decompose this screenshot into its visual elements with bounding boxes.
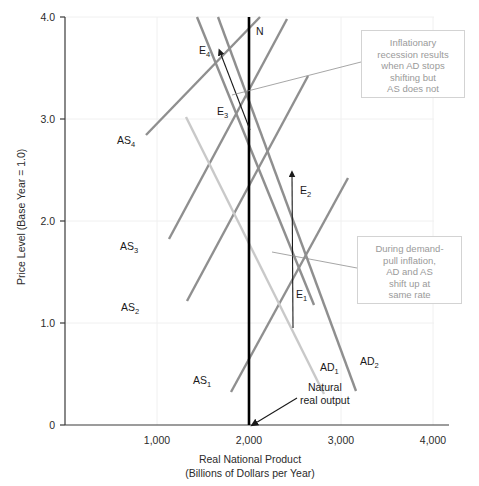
- y-axis-title: Price Level (Base Year = 1.0): [14, 155, 28, 285]
- annotation-connectors: [232, 62, 361, 424]
- as2-curve: [187, 76, 308, 301]
- ad3-curve: [197, 17, 314, 305]
- curve-label-ad1-sub: 1: [335, 367, 339, 376]
- ad-shift-arrow: [292, 174, 293, 328]
- curve-label-as3-text: AS: [120, 240, 134, 252]
- note-line: Inflationary: [366, 37, 460, 49]
- x-axis-title-line1: Real National Product: [199, 453, 301, 465]
- xtick-3000: 3,000: [328, 434, 354, 446]
- ytick-0: 0: [10, 419, 55, 431]
- curve-label-as1-text: AS: [193, 374, 207, 386]
- xtick-4000: 4,000: [420, 434, 446, 446]
- x-axis-title: Real National Product (Billions of Dolla…: [100, 452, 400, 480]
- note-line: real output: [300, 394, 350, 406]
- equilibrium-label-e2-text: E: [300, 184, 307, 196]
- equilibrium-label-e3: E3: [217, 105, 228, 120]
- note-line: AS does not: [366, 83, 460, 95]
- equilibrium-label-e1-text: E: [296, 288, 303, 300]
- inflationary-recession-connector: [232, 62, 361, 95]
- curve-label-n-text: N: [256, 25, 264, 37]
- note-line: Natural: [308, 381, 342, 393]
- equilibrium-label-e3-text: E: [217, 105, 224, 117]
- curve-label-as2-text: AS: [121, 301, 135, 313]
- inflationary-recession-note: Inflationary recession results when AD s…: [361, 30, 465, 98]
- ytick-1: 1.0: [10, 317, 55, 329]
- note-line: pull inflation,: [362, 255, 457, 267]
- note-line: shift up at: [362, 278, 457, 290]
- curve-label-ad1: AD1: [320, 361, 339, 376]
- note-line: when AD stops: [366, 60, 460, 72]
- note-line: AD and AS: [362, 266, 457, 278]
- curve-label-as2-sub: 2: [135, 307, 139, 316]
- curve-label-as4-text: AS: [117, 134, 131, 146]
- note-line: recession results: [366, 49, 460, 61]
- note-line: same rate: [362, 289, 457, 301]
- demand-pull-connector: [272, 252, 357, 268]
- xtick-2000: 2,000: [236, 434, 262, 446]
- natural-real-output-note: Natural real output: [300, 381, 350, 407]
- note-line: During demand-: [362, 243, 457, 255]
- curve-label-as4: AS4: [117, 134, 135, 149]
- curve-label-ad2-text: AD: [360, 355, 375, 367]
- equilibrium-label-e2-sub: 2: [307, 190, 311, 199]
- equilibrium-label-e4: E4: [199, 44, 210, 59]
- ytick-3: 3.0: [10, 113, 55, 125]
- x-axis-title-line2: (Billions of Dollars per Year): [185, 467, 315, 479]
- curve-label-as3-sub: 3: [134, 246, 138, 255]
- equilibrium-label-e1-sub: 1: [303, 294, 307, 303]
- xtick-1000: 1,000: [144, 434, 170, 446]
- equilibrium-label-e1: E1: [296, 288, 307, 303]
- equilibrium-label-e4-sub: 4: [206, 50, 210, 59]
- ytick-4: 4.0: [10, 11, 55, 23]
- curve-label-as3: AS3: [120, 240, 138, 255]
- curve-label-ad2: AD2: [360, 355, 379, 370]
- curve-label-as4-sub: 4: [131, 140, 135, 149]
- curve-label-as2: AS2: [121, 301, 139, 316]
- curve-label-as1: AS1: [193, 374, 211, 389]
- curve-label-ad2-sub: 2: [375, 361, 379, 370]
- equilibrium-label-e4-text: E: [199, 44, 206, 56]
- as3-curve: [169, 19, 287, 239]
- note-line: shifting but: [366, 72, 460, 84]
- equilibrium-label-e3-sub: 3: [224, 111, 228, 120]
- demand-pull-note: During demand- pull inflation, AD and AS…: [357, 236, 462, 304]
- curve-label-as1-sub: 1: [207, 380, 211, 389]
- curve-label-ad1-text: AD: [320, 361, 335, 373]
- curve-label-n: N: [256, 25, 264, 37]
- ad-curves: [186, 17, 356, 394]
- equilibrium-label-e2: E2: [300, 184, 311, 199]
- figure-container: 4.0 3.0 2.0 1.0 0 1,000 2,000 3,000 4,00…: [0, 0, 479, 486]
- natural-real-output-arrow: [254, 398, 297, 424]
